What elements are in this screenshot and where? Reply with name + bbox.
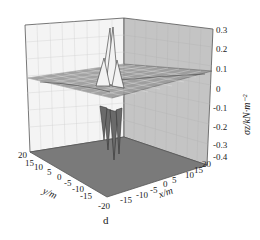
svg-text:0: 0 xyxy=(57,172,62,182)
svg-text:σz/kN·m⁻²: σz/kN·m⁻² xyxy=(241,94,252,135)
svg-text:-0.1: -0.1 xyxy=(213,103,227,113)
svg-text:0.3: 0.3 xyxy=(216,25,228,35)
z-axis: 0.3 0.2 0.1 0 -0.1 -0.2 -0.3 -0.4 σz/kN·… xyxy=(213,25,252,162)
svg-text:-0.2: -0.2 xyxy=(213,122,227,132)
svg-text:-15: -15 xyxy=(120,195,132,205)
svg-text:5: 5 xyxy=(172,175,177,185)
svg-text:-15: -15 xyxy=(80,191,92,201)
surface-plot: 0.3 0.2 0.1 0 -0.1 -0.2 -0.3 -0.4 σz/kN·… xyxy=(0,0,260,240)
svg-text:-0.4: -0.4 xyxy=(213,152,228,162)
svg-text:x/m: x/m xyxy=(156,185,174,201)
svg-text:y/m: y/m xyxy=(40,184,59,201)
svg-text:0.2: 0.2 xyxy=(216,44,227,54)
svg-text:-10: -10 xyxy=(136,190,148,200)
svg-text:0.1: 0.1 xyxy=(216,64,227,74)
figure-caption: d xyxy=(103,214,109,226)
svg-text:0: 0 xyxy=(216,84,221,94)
svg-text:-5: -5 xyxy=(64,178,72,188)
svg-text:10: 10 xyxy=(34,162,44,172)
svg-text:5: 5 xyxy=(47,167,52,177)
svg-text:-0.3: -0.3 xyxy=(213,140,228,150)
svg-text:20: 20 xyxy=(202,159,212,169)
svg-text:-20: -20 xyxy=(98,201,110,211)
